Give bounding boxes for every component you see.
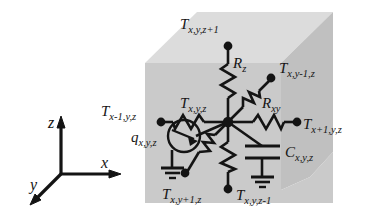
cube-shape	[145, 12, 333, 203]
label-t-x-y-z-sub: x,y,z	[187, 103, 206, 114]
figure-canvas: z x y	[0, 0, 382, 221]
label-t-x-yplus1-z-sub: x,y+1,z	[169, 194, 201, 205]
label-t-xminus1-y-z-sub: x-1,y,z	[108, 111, 136, 122]
node-dot-yminus	[267, 74, 276, 83]
label-t-x-y-zplus1-sub: x,y,z+1	[187, 24, 218, 35]
node-dot-xplus	[293, 118, 302, 127]
y-axis-line	[36, 174, 61, 199]
thermal-network-diagram: z x y	[0, 0, 382, 221]
node-dot-zminus	[224, 185, 233, 194]
x-axis-arrowhead	[109, 170, 121, 178]
axis-label-x: x	[100, 154, 108, 171]
label-r-xy-sub: xy	[270, 103, 281, 114]
axis-label-y: y	[28, 176, 38, 194]
label-r-xy-base: R	[261, 95, 271, 111]
label-t-xminus1-y-z: Tx-1,y,z	[101, 103, 136, 122]
node-dot-yplus	[181, 169, 190, 178]
label-r-z-sub: z	[241, 63, 246, 74]
label-t-xplus1-y-z-sub: x+1,y,z	[310, 124, 341, 135]
label-t-x-y-zminus1-sub: x,y,z-1	[243, 195, 271, 206]
label-c-x-y-z-sub: x,y,z	[294, 152, 313, 163]
label-q-x-y-z-sub: x,y,z	[138, 137, 157, 148]
axis-label-z: z	[47, 114, 55, 131]
node-dot-zplus	[224, 42, 233, 51]
label-t-x-yminus1-z-sub: x,y-1,z	[286, 68, 314, 79]
node-dot-center	[223, 117, 233, 127]
z-axis-arrowhead	[57, 116, 65, 128]
label-r-z-base: R	[232, 55, 242, 71]
node-dot-xminus	[157, 118, 166, 127]
